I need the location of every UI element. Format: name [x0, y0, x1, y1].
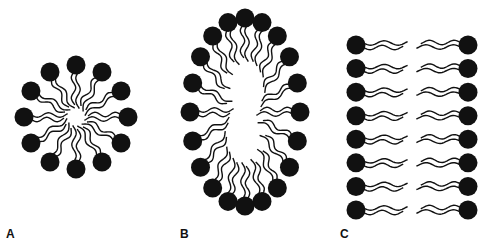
lipid-tail: [198, 112, 230, 116]
lipid-head: [347, 106, 366, 125]
lipid-tail: [245, 166, 249, 198]
lipid-head: [288, 73, 307, 92]
lipid-molecule: [347, 36, 408, 55]
lipid-tail: [421, 205, 461, 209]
lipid-head: [41, 153, 60, 172]
lipid-head: [347, 36, 366, 55]
lipid-head: [93, 153, 112, 172]
lipid-tail: [213, 44, 227, 73]
lipid-head: [459, 130, 478, 149]
lipid-head: [459, 201, 478, 220]
lipid-head: [347, 177, 366, 196]
lipid-tail: [364, 69, 404, 73]
lipid-tail: [260, 135, 284, 162]
lipid-molecule: [416, 153, 477, 172]
lipid-tail: [364, 140, 404, 144]
lipid-tail: [364, 45, 404, 49]
lipid-molecule: [347, 59, 408, 78]
lipid-tail: [198, 108, 234, 112]
lipid-head: [183, 132, 202, 151]
lipid-tail: [76, 129, 80, 161]
lipid-tail: [421, 88, 461, 92]
micelle-panel: [15, 56, 138, 179]
lipid-molecule: [251, 13, 271, 66]
lipid-tail: [421, 182, 461, 186]
lipid-head: [280, 47, 299, 66]
lipid-tail: [204, 131, 226, 160]
lipid-head: [252, 13, 271, 32]
lipid-tail: [416, 163, 460, 167]
lipid-head: [459, 153, 478, 172]
lipid-molecule: [81, 62, 112, 111]
lipid-tail: [72, 125, 76, 161]
lipid-head: [459, 59, 478, 78]
lipid-head: [347, 130, 366, 149]
lipid-head: [67, 160, 86, 179]
lipid-head: [93, 62, 112, 81]
lipid-head: [459, 106, 478, 125]
lipid-tail: [416, 210, 460, 214]
lipid-head: [268, 26, 287, 45]
lipid-tail: [263, 151, 277, 180]
lipid-molecule: [416, 59, 477, 78]
lipid-head: [291, 103, 310, 122]
lipid-tail: [256, 112, 292, 116]
lipid-molecule: [416, 177, 477, 196]
lipid-structures-diagram: [0, 0, 490, 249]
lipid-head: [236, 9, 255, 28]
lipid-head: [21, 82, 40, 101]
lipid-head: [347, 83, 366, 102]
lipid-head: [347, 59, 366, 78]
lipid-tail: [421, 111, 461, 115]
lipid-molecule: [347, 83, 408, 102]
lipid-tail: [198, 89, 227, 104]
lipid-tail: [364, 163, 404, 167]
lipid-tail: [416, 92, 460, 96]
lipid-molecule: [183, 117, 229, 151]
lipid-molecule: [21, 82, 70, 113]
lipid-tail: [85, 97, 116, 116]
lipid-tail: [265, 64, 287, 93]
lipid-tail: [364, 116, 404, 120]
lipid-tail: [364, 41, 408, 45]
lipid-tail: [77, 126, 96, 157]
lipid-tail: [416, 186, 460, 190]
lipid-tail: [416, 116, 460, 120]
bilayer-panel: [347, 36, 478, 220]
lipid-tail: [76, 73, 80, 109]
lipid-molecule: [416, 83, 477, 102]
lipid-tail: [260, 107, 292, 111]
lipid-tail: [364, 135, 408, 139]
lipid-head: [119, 108, 138, 127]
lipid-tail: [421, 135, 461, 139]
lipid-tail: [364, 88, 408, 92]
lipid-tail: [364, 93, 404, 97]
lipid-head: [347, 201, 366, 220]
lipid-molecule: [416, 130, 477, 149]
lipid-molecule: [181, 103, 234, 122]
lipid-tail: [240, 26, 244, 58]
lipid-molecule: [41, 123, 72, 172]
lipid-molecule: [416, 36, 477, 55]
lipid-molecule: [347, 153, 408, 172]
lipid-head: [112, 82, 131, 101]
lipid-tail: [263, 120, 292, 135]
lipid-tail: [421, 158, 461, 162]
lipid-molecule: [347, 130, 408, 149]
lipid-head: [15, 108, 34, 127]
lipid-tail: [245, 26, 249, 62]
lipid-tail: [364, 64, 408, 68]
lipid-head: [219, 192, 238, 211]
lipid-head: [459, 177, 478, 196]
lipid-tail: [421, 64, 461, 68]
lipid-head: [203, 179, 222, 198]
lipid-head: [181, 103, 200, 122]
lipid-molecule: [261, 73, 307, 107]
lipid-molecule: [347, 106, 408, 125]
lipid-tail: [32, 113, 68, 117]
lipid-tail: [364, 187, 404, 191]
panel-label-a: A: [6, 227, 15, 241]
lipid-head: [252, 192, 271, 211]
lipid-head: [288, 132, 307, 151]
lipid-tail: [416, 139, 460, 143]
